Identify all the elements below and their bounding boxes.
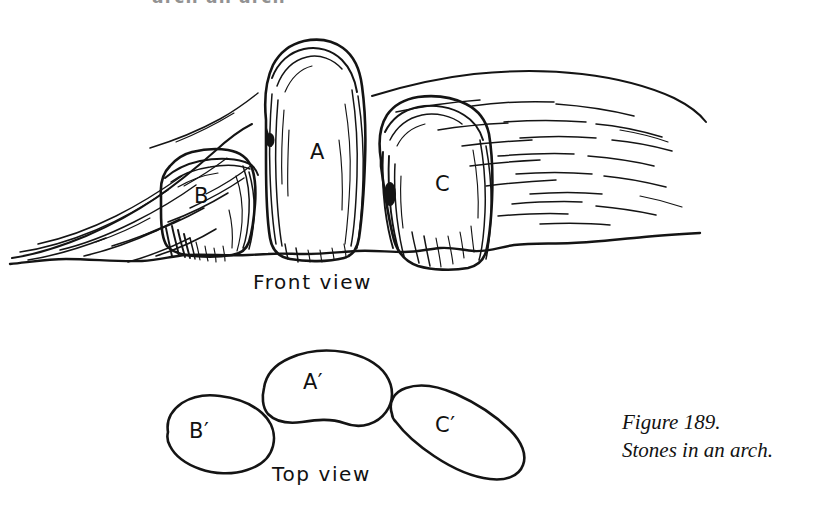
top-view-letter-c-prime: C′	[435, 415, 455, 436]
top-view-letter-a-prime: A′	[303, 372, 323, 393]
stone-letter-a: A	[310, 142, 325, 163]
top-view-stone-b	[167, 395, 274, 473]
right-hillside	[372, 71, 706, 225]
top-view-label: Top view	[272, 464, 371, 484]
stone-letter-b: B	[194, 186, 209, 207]
top-view-group	[167, 351, 524, 480]
top-view-letter-b-prime: B′	[189, 421, 209, 442]
left-hillside	[12, 93, 258, 262]
figure-illustration: arch an arch	[0, 0, 832, 512]
figure-caption: Figure 189. Stones in an arch.	[622, 408, 832, 465]
stone-letter-c: C	[435, 174, 450, 195]
figure-caption-title: Stones in an arch.	[622, 436, 832, 464]
front-view-group	[10, 40, 706, 270]
top-view-stone-a	[263, 351, 392, 426]
front-view-label: Front view	[253, 272, 372, 292]
figure-caption-number: Figure 189.	[622, 408, 832, 436]
top-view-stone-c	[391, 386, 525, 480]
